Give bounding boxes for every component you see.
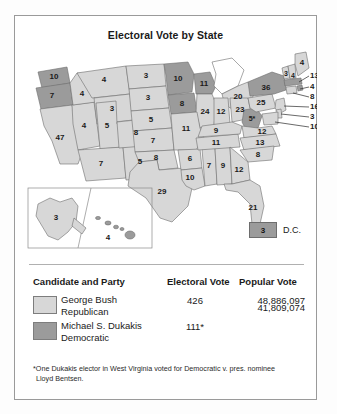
label-indiana: 12 bbox=[217, 107, 226, 116]
state-connecticut[interactable] bbox=[286, 86, 297, 94]
footnote-line-2: Lloyd Bentsen. bbox=[33, 374, 301, 384]
callout-line-new-jersey bbox=[284, 106, 309, 107]
label-nebraska: 5 bbox=[149, 115, 154, 124]
label-alabama: 9 bbox=[221, 161, 226, 170]
footnote: *One Dukakis elector in West Virginia vo… bbox=[33, 364, 301, 384]
label-nevada: 4 bbox=[82, 121, 87, 130]
callout-label-maryland: 10 bbox=[310, 122, 317, 131]
state-oregon[interactable] bbox=[36, 83, 73, 109]
label-west-virginia: 5* bbox=[249, 115, 256, 122]
state-florida[interactable] bbox=[224, 180, 264, 224]
legend-party-dukakis: Democratic bbox=[61, 332, 142, 344]
label-colorado: 8 bbox=[134, 128, 139, 137]
label-wisconsin: 11 bbox=[200, 79, 209, 88]
dc-key: 3 D.C. bbox=[249, 222, 301, 238]
legend-popular-dukakis: 41,809,074 bbox=[233, 302, 305, 313]
label-wyoming: 3 bbox=[110, 104, 115, 113]
label-hawaii: 4 bbox=[106, 233, 111, 242]
label-new-hampshire: 4 bbox=[291, 72, 295, 79]
label-mississippi: 7 bbox=[207, 161, 212, 170]
inset-divider bbox=[78, 188, 91, 248]
label-minnesota: 10 bbox=[174, 74, 183, 83]
figure-frame: Electoral Vote by State bbox=[14, 15, 317, 400]
label-georgia: 12 bbox=[235, 165, 244, 174]
label-ohio: 23 bbox=[236, 105, 245, 114]
callout-line-connecticut bbox=[293, 93, 309, 97]
callout-label-massachusetts: 13 bbox=[310, 71, 317, 80]
state-rhode-island[interactable] bbox=[297, 85, 303, 91]
label-pennsylvania: 25 bbox=[257, 98, 266, 107]
label-illinois: 24 bbox=[201, 107, 210, 116]
legend-table: Candidate and Party Electoral Vote Popul… bbox=[15, 264, 318, 344]
label-california: 47 bbox=[56, 133, 65, 142]
label-oregon: 7 bbox=[50, 91, 55, 100]
label-louisiana: 10 bbox=[186, 173, 195, 182]
legend-swatch-bush[interactable] bbox=[33, 296, 57, 314]
legend-header-popular: Popular Vote bbox=[239, 276, 297, 287]
legend-electoral-dukakis: 111* bbox=[167, 321, 223, 332]
legend-candidate-name-dukakis: Michael S. Dukakis bbox=[61, 320, 142, 332]
label-north-carolina: 13 bbox=[256, 138, 265, 147]
label-michigan: 20 bbox=[234, 92, 243, 101]
legend-candidate-name-bush: George Bush bbox=[61, 294, 117, 306]
legend-party-bush: Republican bbox=[61, 306, 117, 318]
label-new-york: 36 bbox=[262, 83, 271, 92]
callout-line-maryland bbox=[275, 122, 309, 127]
electoral-map: 10 7 47 4 4 4 3 5 7 5 8 3 3 5 7 8 29 10 … bbox=[16, 46, 317, 261]
label-alaska: 3 bbox=[54, 213, 59, 222]
legend-candidate-dukakis: Michael S. Dukakis Democratic bbox=[61, 320, 142, 343]
label-kansas: 7 bbox=[151, 136, 156, 145]
label-utah: 5 bbox=[105, 121, 110, 130]
label-south-carolina: 8 bbox=[256, 150, 261, 159]
callout-label-delaware: 3 bbox=[310, 112, 315, 121]
label-north-dakota: 3 bbox=[144, 71, 149, 80]
legend-swatch-dukakis[interactable] bbox=[33, 322, 57, 340]
legend-divider bbox=[29, 264, 304, 265]
state-maryland[interactable] bbox=[262, 112, 278, 125]
label-idaho: 4 bbox=[80, 89, 85, 98]
label-missouri: 11 bbox=[182, 124, 191, 133]
callout-label-new-jersey: 16 bbox=[310, 102, 317, 111]
legend-candidate-bush: George Bush Republican bbox=[61, 294, 117, 317]
page-title: Electoral Vote by State bbox=[15, 29, 316, 41]
label-arkansas: 6 bbox=[188, 154, 193, 163]
dc-swatch[interactable]: 3 bbox=[249, 222, 277, 238]
label-kentucky: 9 bbox=[214, 126, 219, 135]
dc-label: D.C. bbox=[283, 225, 301, 235]
callout-label-connecticut: 8 bbox=[310, 92, 315, 101]
label-montana: 4 bbox=[102, 75, 107, 84]
legend-header-candidate: Candidate and Party bbox=[33, 276, 125, 287]
label-florida: 21 bbox=[249, 203, 258, 212]
callout-line-delaware bbox=[281, 114, 309, 117]
label-arizona: 7 bbox=[99, 159, 104, 168]
label-washington: 10 bbox=[50, 72, 59, 81]
label-iowa: 8 bbox=[180, 99, 185, 108]
hawaii-islands[interactable] bbox=[96, 216, 136, 239]
legend-electoral-bush: 426 bbox=[167, 295, 223, 306]
label-oklahoma: 8 bbox=[154, 153, 159, 162]
callout-label-rhode-island: 4 bbox=[310, 82, 315, 91]
label-virginia: 12 bbox=[258, 127, 267, 136]
label-vermont: 3 bbox=[284, 70, 288, 77]
figure-page: Electoral Vote by State bbox=[0, 0, 337, 414]
footnote-line-1: *One Dukakis elector in West Virginia vo… bbox=[33, 364, 301, 374]
label-tennessee: 11 bbox=[212, 138, 221, 147]
label-maine: 4 bbox=[300, 58, 305, 67]
label-texas: 29 bbox=[158, 187, 167, 196]
legend-header-electoral: Electoral Vote bbox=[167, 276, 230, 287]
label-south-dakota: 3 bbox=[146, 93, 151, 102]
label-new-mexico: 5 bbox=[138, 157, 143, 166]
